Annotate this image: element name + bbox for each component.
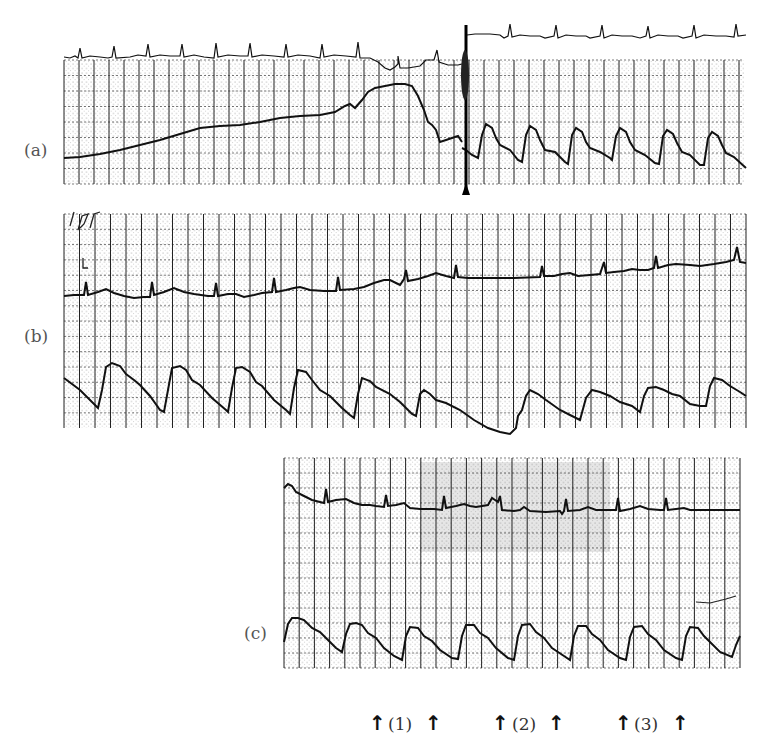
panel-label-a: (a) (24, 140, 47, 160)
marker-3-label: (3) (634, 714, 658, 734)
marker-1-start-arrow-icon: ↑ (369, 711, 386, 735)
panel-b-strip (64, 212, 746, 434)
marker-2-end-arrow-icon: ↑ (548, 711, 565, 735)
panel-a-strip (64, 24, 746, 195)
panel-a-ecg-trace-post (467, 24, 746, 38)
marker-3-start-arrow-icon: ↑ (615, 711, 632, 735)
marker-3-end-arrow-icon: ↑ (672, 711, 689, 735)
marker-2-start-arrow-icon: ↑ (492, 711, 509, 735)
marker-1-label: (1) (388, 714, 412, 734)
panel-a-event-marker-triangle (462, 183, 470, 195)
panel-c-strip (284, 458, 740, 668)
marker-1-end-arrow-icon: ↑ (425, 711, 442, 735)
figure-canvas (0, 0, 776, 740)
panel-label-c: (c) (244, 623, 267, 643)
panel-label-b: (b) (24, 326, 48, 346)
marker-2-label: (2) (512, 714, 536, 734)
panel-a-event-artifact (461, 50, 469, 100)
